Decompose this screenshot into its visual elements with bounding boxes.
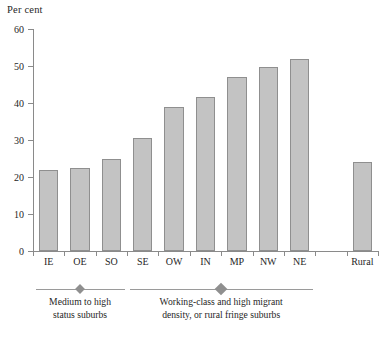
bar-ie [39,170,58,251]
plot-area: 0102030405060 [33,29,378,252]
y-tick-label: 10 [14,210,24,220]
group-caption-line2: density, or rural fringe suburbs [160,309,283,322]
bar-in [196,97,215,251]
bar-se [133,138,152,251]
y-axis-title: Per cent [7,4,43,15]
y-tick-label: 0 [19,247,24,257]
x-tick [158,251,159,256]
y-tick: 20 [28,177,34,178]
y-tick-label: 50 [14,62,24,72]
x-tick [33,251,34,256]
y-tick: 40 [28,103,34,104]
bar-so [102,159,121,251]
x-label-in: IN [200,256,211,267]
bar-rural [353,162,372,251]
group-caption: Medium to highstatus suburbs [49,296,111,321]
x-label-mp: MP [230,256,244,267]
bar-mp [227,77,246,251]
x-label-ow: OW [166,256,183,267]
x-axis-line [33,251,378,252]
bar-nw [259,67,278,251]
x-label-oe: OE [73,256,86,267]
x-tick [284,251,285,256]
y-tick-label: 40 [14,99,24,109]
x-tick [190,251,191,256]
x-tick [253,251,254,256]
group-diamond-marker [75,284,85,294]
x-label-rural: Rural [351,256,373,267]
bar-chart-figure: Per cent 0102030405060 IEOESOSEOWINMPNWN… [0,0,386,337]
y-tick-label: 20 [14,173,24,183]
y-tick: 10 [28,214,34,215]
x-label-nw: NW [260,256,277,267]
x-tick [347,251,348,256]
x-tick [315,251,316,256]
y-tick: 60 [28,29,34,30]
x-tick [221,251,222,256]
group-diamond-marker [215,283,228,296]
x-tick [378,251,379,256]
group-caption-line2: status suburbs [49,309,111,322]
x-label-se: SE [137,256,149,267]
y-tick: 30 [28,140,34,141]
bar-ne [290,59,309,251]
x-tick [127,251,128,256]
y-tick-label: 30 [14,136,24,146]
x-tick [96,251,97,256]
x-label-so: SO [105,256,118,267]
y-tick: 50 [28,66,34,67]
x-label-ne: NE [293,256,306,267]
x-tick [64,251,65,256]
group-caption: Working-class and high migrantdensity, o… [160,296,283,321]
bar-oe [70,168,89,251]
y-tick-label: 60 [14,25,24,35]
bar-ow [164,107,183,251]
group-caption-line1: Working-class and high migrant [160,296,283,309]
group-caption-line1: Medium to high [49,296,111,309]
x-label-ie: IE [44,256,53,267]
